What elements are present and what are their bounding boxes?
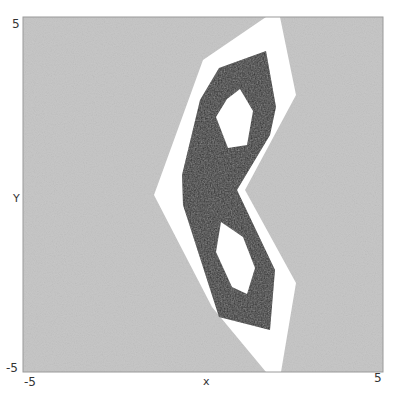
x-tick-max: 5: [374, 372, 382, 384]
x-tick-min: -5: [24, 376, 36, 388]
plot-canvas: [0, 0, 394, 397]
y-tick-min: -5: [6, 362, 18, 374]
figure: 5 -5 -5 5 x Y: [0, 0, 394, 397]
x-axis-label: x: [203, 376, 210, 387]
y-axis-label: Y: [13, 193, 20, 204]
y-tick-max: 5: [12, 18, 20, 30]
